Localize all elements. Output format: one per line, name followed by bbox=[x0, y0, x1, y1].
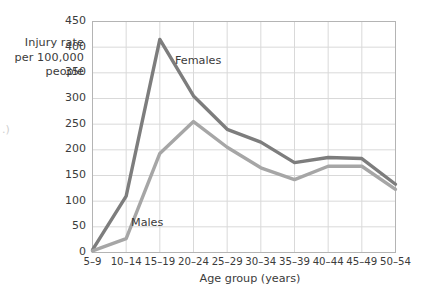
series-label-females: Females bbox=[175, 54, 221, 67]
chart-figure: Injury rate per 100,000 people .) Age gr… bbox=[0, 0, 428, 295]
y-tick-label: 200 bbox=[52, 142, 86, 155]
y-tick-label: 150 bbox=[52, 168, 86, 181]
y-tick-label: 350 bbox=[52, 65, 86, 78]
stray-mark: .) bbox=[2, 123, 10, 136]
y-tick-label: 50 bbox=[52, 219, 86, 232]
x-tick-label: 50–54 bbox=[374, 256, 418, 267]
y-axis-title-line-2: per 100,000 bbox=[4, 51, 84, 66]
y-tick-label: 100 bbox=[52, 194, 86, 207]
series-label-males: Males bbox=[131, 216, 163, 229]
y-tick-label: 450 bbox=[52, 14, 86, 27]
x-axis-title: Age group (years) bbox=[160, 272, 340, 285]
y-tick-label: 250 bbox=[52, 117, 86, 130]
y-tick-label: 300 bbox=[52, 91, 86, 104]
y-tick-label: 400 bbox=[52, 40, 86, 53]
